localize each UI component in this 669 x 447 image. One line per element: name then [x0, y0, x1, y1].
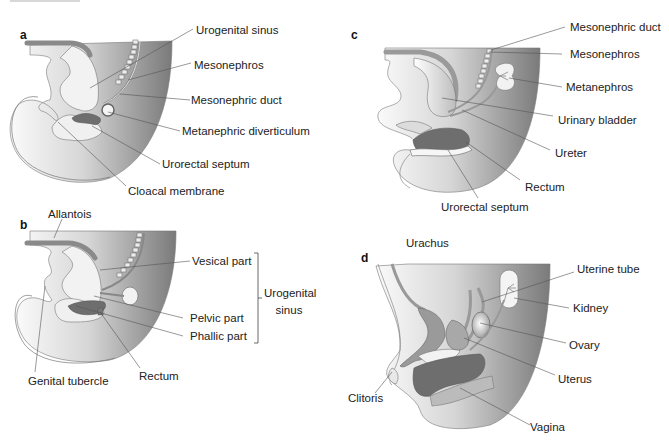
panel-b-drawing [15, 231, 176, 363]
label-d-kidney: Kidney [573, 302, 608, 315]
panel-letter-b: b [20, 218, 27, 232]
label-b-group-line2: sinus [264, 304, 314, 317]
label-b-vesical-part: Vesical part [192, 255, 251, 268]
label-d-ovary: Ovary [569, 339, 600, 352]
label-b-genital-tubercle: Genital tubercle [28, 375, 109, 388]
label-a-metanephric-diverticulum: Metanephric diverticulum [182, 125, 310, 138]
label-c-mesonephric-duct: Mesonephric duct [570, 21, 661, 34]
panel-d-drawing [376, 264, 550, 429]
label-c-mesonephros: Mesonephros [570, 48, 640, 61]
label-b-pelvic-part: Pelvic part [190, 312, 244, 325]
panel-letter-d: d [361, 251, 368, 265]
label-c-metanephros: Metanephros [566, 81, 633, 94]
label-a-cloacal-membrane: Cloacal membrane [128, 185, 225, 198]
label-a-urorectal-septum: Urorectal septum [162, 158, 250, 171]
label-d-vagina: Vagina [530, 421, 565, 434]
label-c-urorectal-septum: Urorectal septum [441, 201, 529, 214]
label-b-rectum: Rectum [139, 370, 179, 383]
panel-letter-a: a [20, 28, 27, 42]
label-d-uterus: Uterus [558, 373, 592, 386]
label-a-urogenital-sinus: Urogenital sinus [196, 24, 278, 37]
label-b-phallic-part: Phallic part [190, 330, 247, 343]
urogenital-sinus-bracket [254, 253, 262, 343]
label-b-urogenital-sinus-group: Urogenital sinus [264, 287, 314, 317]
label-d-urachus: Urachus [406, 237, 449, 250]
label-c-ureter: Ureter [555, 147, 587, 160]
label-a-mesonephros: Mesonephros [194, 59, 264, 72]
label-b-allantois: Allantois [48, 208, 91, 221]
label-d-uterine-tube: Uterine tube [577, 263, 640, 276]
label-a-mesonephric-duct: Mesonephric duct [191, 94, 282, 107]
panel-c-drawing [378, 48, 540, 192]
label-b-group-line1: Urogenital [264, 287, 314, 300]
label-d-clitoris: Clitoris [348, 392, 383, 405]
panel-letter-c: c [351, 28, 358, 42]
panel-a-drawing [10, 40, 172, 182]
label-c-urinary-bladder: Urinary bladder [558, 114, 637, 127]
label-c-rectum: Rectum [525, 181, 565, 194]
